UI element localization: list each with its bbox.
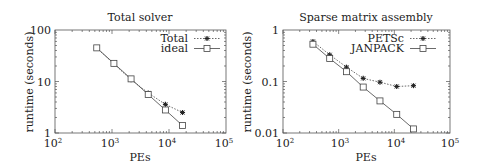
- svg-text:104: 104: [158, 137, 177, 150]
- figure: Total solver 100 10 1 102 103 104 105 PE…: [0, 0, 478, 168]
- legend-label-janpack: JANPACK: [350, 42, 405, 55]
- svg-text:102: 102: [276, 137, 294, 150]
- asterisk-marker: [377, 80, 382, 85]
- x-tick-label: 104: [387, 137, 406, 150]
- svg-text:105: 105: [441, 137, 459, 150]
- square-marker: [310, 41, 316, 47]
- plot-frame: [55, 30, 226, 133]
- square-marker: [94, 45, 100, 51]
- square-marker: [162, 107, 168, 113]
- legend-markers: [194, 36, 220, 52]
- legend-markers: [410, 36, 436, 52]
- square-marker: [180, 122, 186, 128]
- data-series: [94, 45, 186, 129]
- svg-text:102: 102: [44, 137, 62, 150]
- x-tick-label: 105: [215, 137, 233, 150]
- asterisk-marker: [361, 76, 366, 81]
- chart-sparse-matrix-assembly: Sparse matrix assembly 1 0.1 0.01 102 10…: [241, 11, 459, 164]
- x-axis-label: PEs: [355, 151, 376, 164]
- x-tick-label: 104: [158, 137, 177, 150]
- square-marker: [394, 111, 400, 117]
- y-axis-label: runtime (seconds): [23, 31, 36, 132]
- chart-total-solver: Total solver 100 10 1 102 103 104 105 PE…: [23, 11, 233, 164]
- chart-title: Sparse matrix assembly: [299, 11, 433, 24]
- x-tick-label: 103: [331, 137, 349, 150]
- x-tick-label: 102: [44, 137, 62, 150]
- svg-text:104: 104: [387, 137, 406, 150]
- svg-text:105: 105: [215, 137, 233, 150]
- square-marker: [145, 91, 151, 97]
- y-tick-label: 1: [272, 24, 279, 37]
- square-marker: [360, 84, 366, 90]
- x-tick-label: 102: [276, 137, 294, 150]
- y-tick-label: 0.1: [262, 76, 280, 89]
- axis-ticks: [55, 30, 226, 133]
- x-tick-label: 105: [441, 137, 459, 150]
- square-marker: [420, 46, 426, 52]
- y-tick-label: 10: [37, 76, 51, 89]
- square-marker: [343, 69, 349, 75]
- square-marker: [377, 98, 383, 104]
- chart-title: Total solver: [108, 11, 174, 24]
- y-axis-label: runtime (seconds): [241, 31, 254, 132]
- svg-text:103: 103: [331, 137, 349, 150]
- asterisk-marker: [411, 83, 416, 88]
- x-axis-label: PEs: [129, 151, 150, 164]
- asterisk-marker: [163, 102, 168, 107]
- asterisk-marker: [394, 84, 399, 89]
- asterisk-marker: [421, 36, 426, 41]
- svg-text:103: 103: [101, 137, 119, 150]
- square-marker: [327, 55, 333, 61]
- asterisk-marker: [180, 110, 185, 115]
- square-marker: [410, 126, 416, 132]
- legend-label-ideal: ideal: [161, 42, 189, 55]
- series-line-total: [97, 48, 183, 113]
- asterisk-marker: [205, 36, 210, 41]
- square-marker: [204, 46, 210, 52]
- x-tick-label: 103: [101, 137, 119, 150]
- square-marker: [111, 60, 117, 66]
- series-line-ideal: [97, 48, 183, 126]
- square-marker: [128, 76, 134, 82]
